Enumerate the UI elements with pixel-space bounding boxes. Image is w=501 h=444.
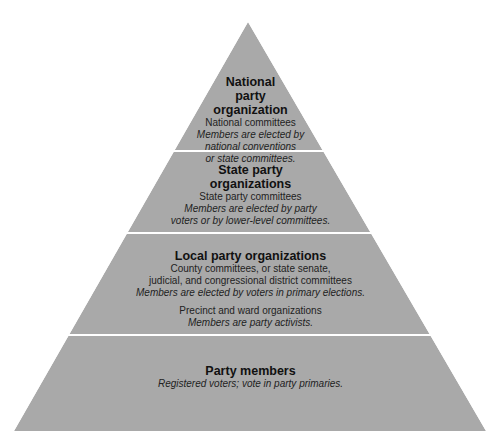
tier-sub-description: Precinct and ward organizations xyxy=(0,305,501,317)
tier-membership: Members are elected by xyxy=(0,129,501,141)
tier-state: State party organizations State party co… xyxy=(0,163,501,227)
tier-membership: Registered voters; vote in party primari… xyxy=(0,378,501,390)
tier-title: organizations xyxy=(0,177,501,191)
tier-membership: voters or by lower-level committees. xyxy=(0,215,501,227)
tier-party-members: Party members Registered voters; vote in… xyxy=(0,364,501,390)
tier-membership: Members are elected by voters in primary… xyxy=(0,287,501,299)
tier-membership: Members are elected by party xyxy=(0,203,501,215)
tier-title: party xyxy=(0,89,501,103)
tier-sub-membership: Members are party activists. xyxy=(0,317,501,329)
tier-description: National committees xyxy=(0,117,501,129)
tier-title: Party members xyxy=(0,364,501,378)
tier-membership: national conventions xyxy=(0,141,501,153)
tier-description: County committees, or state senate, xyxy=(0,263,501,275)
tier-national: National party organization National com… xyxy=(0,75,501,165)
tier-title: State party xyxy=(0,163,501,177)
tier-title: Local party organizations xyxy=(0,249,501,263)
tier-local: Local party organizations County committ… xyxy=(0,249,501,329)
tier-title: National xyxy=(0,75,501,89)
tier-description: judicial, and congressional district com… xyxy=(0,275,501,287)
tier-title: organization xyxy=(0,103,501,117)
tier-description: State party committees xyxy=(0,191,501,203)
